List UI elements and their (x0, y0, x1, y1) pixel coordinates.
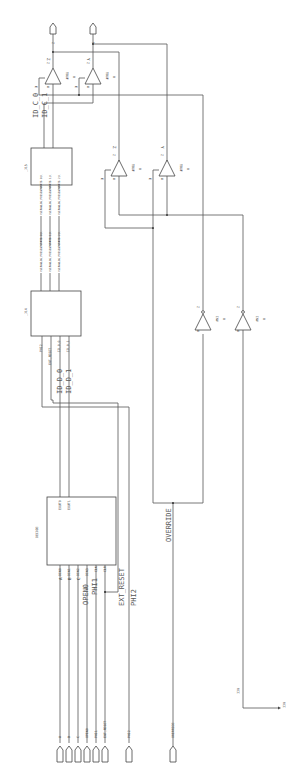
pin-label: Z (196, 306, 200, 308)
wire-enable (153, 170, 159, 228)
net-label-override: OVERRIDE (165, 508, 173, 542)
gate-value-label: 0 (112, 76, 116, 78)
net-label-vcc: VCC (236, 688, 240, 694)
gate-type-label: TBUF (65, 72, 69, 80)
wire (44, 84, 93, 148)
gate-type-label: TBUF (105, 72, 109, 80)
bus-label: \VERANLEG_PRESENTSTATE(2)\ (58, 174, 61, 215)
inverter-2[interactable]: INV 0 Z A (235, 306, 266, 332)
pin-label: Z (46, 62, 50, 64)
wire-enable (79, 78, 85, 95)
net-label-open0: OPEN0 (82, 584, 90, 605)
block-label: _J15 (24, 164, 28, 172)
tbuf-top-z[interactable]: TBUF 0 Z A E (34, 62, 76, 88)
pin-label: A (86, 86, 90, 88)
pin-label: A (196, 330, 200, 332)
port-label: C (76, 736, 80, 738)
wire-ext-reset (51, 336, 53, 400)
pin-label: E (34, 86, 38, 88)
block-j14[interactable]: _J14 (24, 291, 81, 336)
wire-override (153, 228, 173, 503)
block-label: _J14 (24, 308, 28, 316)
wire-y-feedback (93, 44, 167, 170)
port-label: EXT_RESET (103, 721, 107, 738)
gate-value-label: 0 (72, 76, 76, 78)
net-label-b: B (67, 577, 72, 580)
block-label: DECODE (35, 526, 39, 538)
pin-label: E (100, 178, 104, 180)
schematic-canvas: Z Y Z Y TBUF 0 Z A E TBUF 0 Z A E ID_C_0… (0, 0, 300, 767)
pin-label: A (112, 178, 116, 180)
bus-label: \VERANLEG_PRESENTSTATE(0)\ (40, 174, 43, 215)
pin-label-id-0-0: ID_0_0 (57, 340, 61, 352)
wire-override (173, 334, 203, 503)
net-label-id-c-0: ID_C_0 (32, 93, 40, 118)
net-label-c: C (76, 577, 81, 580)
net-label-phi2: PHI2 (130, 589, 138, 606)
net-label-a: A (58, 577, 63, 580)
block-decode[interactable]: DECODE (35, 497, 116, 565)
pin-label: E (74, 86, 78, 88)
pin-label: Z (236, 306, 240, 308)
gate-value-label: 0 (262, 318, 266, 320)
gate-type-label: INV (255, 316, 259, 322)
port-label: PHI2 (127, 730, 131, 738)
pin-label: E (148, 178, 152, 180)
gate-value-label: 0 (222, 318, 226, 320)
input-port-open0[interactable]: OPEN0 (84, 728, 90, 762)
junction-dot (104, 591, 106, 593)
pin-label: Z (112, 154, 116, 156)
gate-type-label: TBUF (131, 164, 135, 172)
net-label-id-d-1: ID_D_1 (65, 369, 73, 394)
inverter-1[interactable]: INV 0 Z A (195, 306, 226, 332)
tbuf-top-y[interactable]: TBUF 0 Z A E (74, 62, 116, 88)
pin-label: A (46, 86, 50, 88)
gate-type-label: INV (215, 316, 219, 322)
gate-type-label: TBUF (179, 164, 183, 172)
port-label: PHI1 (94, 730, 98, 738)
pin-label: Z (86, 62, 90, 64)
bus-label: \VERANLEG_PRESENTSTATE(0)\ (40, 231, 43, 272)
pin-label: Z (160, 154, 164, 156)
wire-a-mid-z (119, 176, 243, 312)
net-label-z: Z (46, 58, 51, 61)
pin-label: EOUT1 (67, 500, 71, 510)
port-label: B (67, 736, 71, 738)
pin-label: A (236, 330, 240, 332)
junction-dot (172, 502, 174, 504)
net-label-z-mid: Z (112, 146, 117, 149)
pin-label: EOUT0 (58, 500, 62, 510)
block-j15[interactable]: _J15 (24, 148, 72, 185)
net-label-y: Y (86, 58, 91, 61)
net-label-vcc-arrow: VCC (282, 702, 286, 708)
net-label-phi1: PHI1 (91, 578, 99, 595)
net-label-id-d-0: ID_D_0 (56, 369, 64, 394)
input-port-phi1[interactable]: PHI1 (93, 730, 99, 762)
bus-label: \VERANLEG_PRESENTSTATE(1)\ (49, 174, 52, 215)
input-port-phi2[interactable]: PHI2 (126, 730, 132, 762)
net-label-id-c-1: ID_C_1 (41, 93, 49, 118)
vcc-arrow-icon (278, 707, 281, 710)
port-label: A (58, 736, 62, 738)
tbuf-mid-z[interactable]: TBUF 0 Z A E (100, 154, 142, 180)
gate-value-label: 0 (138, 168, 142, 170)
pin-label: A (160, 178, 164, 180)
net-label-y-mid: Y (160, 146, 165, 149)
port-label: OPEN0 (85, 728, 89, 738)
bus-label: \VERANLEG_PRESENTSTATE(2)\ (58, 231, 61, 272)
junction-dot (78, 94, 80, 96)
tbuf-mid-y[interactable]: TBUF 0 Z A E (148, 154, 190, 180)
net-label-ext-reset: EXT_RESET (118, 567, 126, 606)
bus-label: \VERANLEG_PRESENTSTATE(1)\ (49, 231, 52, 272)
gate-value-label: 0 (186, 168, 190, 170)
wire-vcc (243, 330, 278, 708)
